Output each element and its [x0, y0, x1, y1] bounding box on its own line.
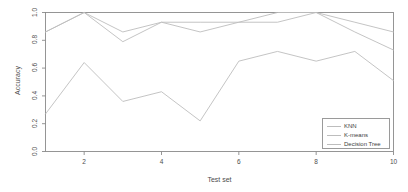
legend-label: K-means	[344, 131, 368, 140]
accuracy-line-chart: 0.00.20.40.60.81.0 246810 Accuracy Test …	[0, 0, 408, 192]
plot-area	[0, 0, 408, 192]
series-line-k-means	[46, 13, 394, 51]
y-tick-label: 0.0	[31, 143, 38, 159]
y-tick-label: 0.6	[31, 60, 38, 76]
x-tick-label: 4	[152, 158, 172, 165]
x-tick-label: 10	[384, 158, 404, 165]
series-lines	[46, 13, 394, 121]
y-axis-title: Accuracy	[14, 51, 21, 111]
y-tick-label: 1.0	[31, 4, 38, 20]
legend-line-swatch	[327, 126, 341, 127]
legend-line-swatch	[327, 144, 341, 145]
x-tick-label: 6	[229, 158, 249, 165]
y-tick-label: 0.4	[31, 87, 38, 103]
x-axis-title: Test set	[170, 176, 270, 183]
x-tick-label: 8	[306, 158, 326, 165]
legend-item: KNN	[323, 122, 389, 131]
y-tick-label: 0.2	[31, 115, 38, 131]
legend-label: KNN	[344, 122, 357, 131]
legend: KNNK-meansDecision Tree	[322, 118, 390, 149]
y-tick-label: 0.8	[31, 32, 38, 48]
legend-item: Decision Tree	[323, 140, 389, 149]
series-line-decision-tree	[46, 51, 394, 121]
legend-label: Decision Tree	[344, 140, 381, 149]
legend-item: K-means	[323, 131, 389, 140]
legend-line-swatch	[327, 135, 341, 136]
x-tick-label: 2	[74, 158, 94, 165]
